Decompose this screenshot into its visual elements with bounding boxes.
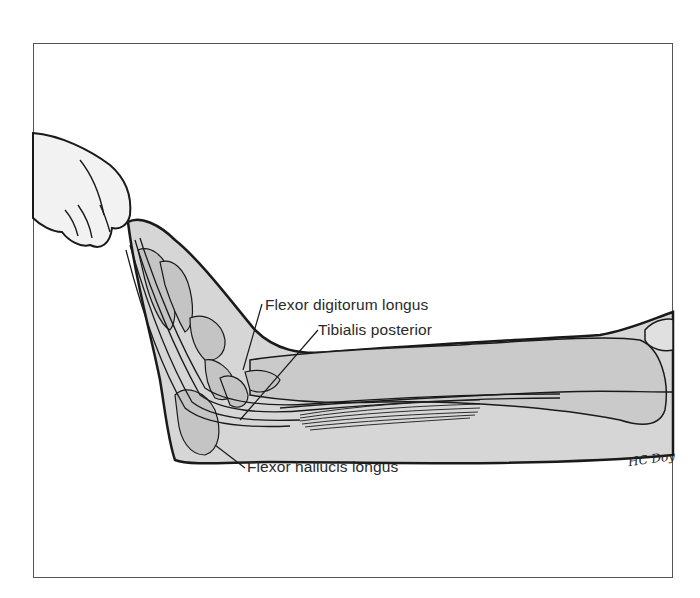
hand [33, 133, 130, 247]
label-flexor-digitorum-longus: Flexor digitorum longus [265, 296, 428, 314]
label-tibialis-posterior: Tibialis posterior [318, 321, 432, 339]
label-flexor-hallucis-longus: Flexor hallucis longus [247, 458, 398, 476]
